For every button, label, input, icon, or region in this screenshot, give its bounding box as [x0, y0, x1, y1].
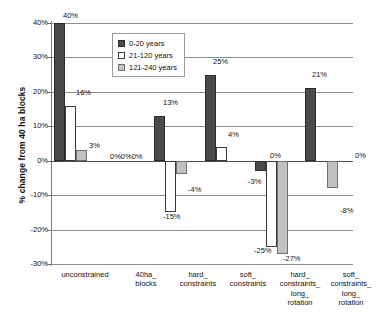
x-axis-category-line: unconstrained	[50, 270, 120, 279]
gridline	[51, 23, 353, 24]
bar	[266, 161, 277, 247]
legend-label: 21-120 years	[129, 51, 173, 60]
y-tick-mark	[47, 126, 51, 127]
bar-value-label: 40%	[63, 12, 78, 20]
y-tick-mark	[47, 264, 51, 265]
y-tick-label: -20%	[20, 226, 48, 234]
legend-item-21-120-years: 21-120 years	[118, 49, 177, 61]
bar-value-label: 16%	[76, 89, 91, 97]
bar-value-label: 3%	[89, 142, 100, 150]
y-tick-label: 30%	[20, 53, 48, 61]
bar	[65, 106, 76, 161]
bar-value-label: -4%	[188, 186, 201, 194]
bar	[54, 23, 65, 161]
legend-swatch-icon	[118, 52, 125, 59]
bar	[165, 161, 176, 213]
x-axis-category-line: long_	[314, 289, 376, 298]
zero-group-value-label: 0%0%0%	[110, 153, 143, 161]
x-axis-category-label: unconstrained	[50, 270, 120, 279]
legend-swatch-icon	[118, 64, 125, 71]
y-axis-title: % change from 40 ha blocks	[17, 45, 27, 245]
y-tick-label: 20%	[20, 88, 48, 96]
bar-value-label: 4%	[228, 131, 239, 139]
x-axis-category-line: soft_	[314, 270, 376, 279]
bar	[205, 75, 216, 161]
bar	[255, 161, 266, 171]
legend-swatch-icon	[118, 40, 125, 47]
y-tick-label: -10%	[20, 191, 48, 199]
bar	[216, 147, 227, 161]
gridline	[51, 195, 353, 196]
zero-line	[51, 161, 353, 162]
legend-item-0-20-years: 0-20 years	[118, 37, 177, 49]
x-axis-category-line: constraints_	[314, 279, 376, 288]
legend-label: 0-20 years	[129, 39, 164, 48]
gridline	[51, 57, 353, 58]
y-tick-label: 10%	[20, 122, 48, 130]
bar	[327, 161, 338, 189]
y-tick-label: 0%	[20, 157, 48, 165]
bar-value-label: -8%	[340, 207, 353, 215]
bar-value-label: 25%	[213, 58, 228, 66]
bar	[176, 161, 187, 175]
legend-item-121-240-years: 121-240 years	[118, 61, 177, 73]
bar-value-label: -15%	[163, 213, 181, 221]
bar-value-label: -27%	[283, 255, 301, 263]
bar-value-label: -3%	[248, 178, 261, 186]
bar	[277, 161, 288, 254]
y-tick-label: -30%	[20, 260, 48, 268]
plot-area: 40%13%25%-3%21%16%-15%4%-25%3%-4%-27%-8%…	[51, 23, 353, 264]
y-tick-mark	[47, 230, 51, 231]
bar-value-label: 13%	[163, 99, 178, 107]
gridline	[51, 264, 353, 265]
y-tick-mark	[47, 195, 51, 196]
bar-value-label: 0%	[355, 152, 366, 160]
y-tick-mark	[47, 23, 51, 24]
bar	[305, 88, 316, 160]
bar	[76, 150, 87, 160]
y-tick-label: 40%	[20, 19, 48, 27]
bar-value-label: -25%	[254, 247, 272, 255]
gridline	[51, 230, 353, 231]
legend: 0-20 years 21-120 years 121-240 years	[112, 33, 185, 77]
y-tick-mark	[47, 161, 51, 162]
y-tick-mark	[47, 57, 51, 58]
x-axis-category-label: soft_constraints_long_rotation	[314, 270, 376, 308]
bar	[154, 116, 165, 161]
x-axis-category-line: rotation	[314, 298, 376, 307]
bar-value-label: 21%	[312, 71, 327, 79]
y-tick-mark	[47, 92, 51, 93]
bar-value-label: 0%	[270, 152, 281, 160]
legend-label: 121-240 years	[129, 63, 177, 72]
